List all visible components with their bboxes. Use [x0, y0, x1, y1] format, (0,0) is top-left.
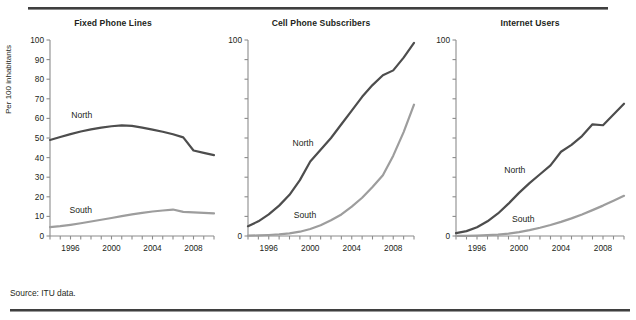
chart-panel-internet-users: Internet Users 01001996200020042008North…	[430, 18, 630, 270]
series-label-north: North	[292, 138, 313, 148]
y-tick-label: 30	[35, 172, 45, 182]
y-tick-label: 70	[35, 94, 45, 104]
y-tick-label: 0	[39, 231, 44, 241]
chart-panel-fixed-phone-lines: Fixed Phone Lines Per 100 inhabitants 01…	[6, 18, 220, 270]
plot-area: 01001996200020042008NorthSouth	[222, 18, 420, 270]
y-tick-label: 100	[30, 35, 44, 45]
y-tick-label: 100	[436, 35, 450, 45]
y-tick-label: 10	[35, 211, 45, 221]
series-line-south	[248, 105, 414, 236]
y-tick-label: 50	[35, 133, 45, 143]
y-tick-label: 90	[35, 55, 45, 65]
y-tick-label: 100	[228, 35, 242, 45]
y-tick-label: 0	[237, 231, 242, 241]
y-tick-label: 40	[35, 153, 45, 163]
x-tick-label: 2004	[552, 243, 571, 253]
figure-panel-chart: Fixed Phone Lines Per 100 inhabitants 01…	[0, 0, 636, 320]
series-label-south: South	[294, 210, 317, 220]
x-tick-label: 1996	[468, 243, 487, 253]
x-tick-label: 2004	[143, 243, 162, 253]
chart-panel-cell-phone-subscribers: Cell Phone Subscribers 01001996200020042…	[222, 18, 420, 270]
series-line-north	[50, 125, 214, 155]
x-tick-label: 1996	[260, 243, 279, 253]
y-tick-label: 20	[35, 192, 45, 202]
y-tick-label: 0	[445, 231, 450, 241]
series-label-north: North	[71, 110, 92, 120]
series-label-south: South	[512, 214, 535, 224]
x-tick-label: 2008	[384, 243, 403, 253]
x-tick-label: 2008	[594, 243, 613, 253]
clipped-header-text	[150, 0, 410, 1]
series-label-south: South	[70, 205, 93, 215]
series-label-north: North	[504, 165, 525, 175]
bottom-rule	[10, 309, 630, 311]
x-tick-label: 1996	[61, 243, 80, 253]
x-tick-label: 2004	[343, 243, 362, 253]
top-rule	[28, 7, 608, 9]
plot-svg: 01001996200020042008NorthSouth	[430, 18, 630, 270]
series-line-south	[456, 196, 624, 236]
x-tick-label: 2008	[184, 243, 203, 253]
x-tick-label: 2000	[301, 243, 320, 253]
plot-area: 01001996200020042008NorthSouth	[430, 18, 630, 270]
series-line-north	[456, 104, 624, 233]
source-note: Source: ITU data.	[10, 288, 76, 298]
y-tick-label: 60	[35, 113, 45, 123]
plot-svg: 01001996200020042008NorthSouth	[222, 18, 420, 270]
x-tick-label: 2000	[102, 243, 121, 253]
y-tick-label: 80	[35, 74, 45, 84]
plot-area: 01020304050607080901001996200020042008No…	[6, 18, 220, 270]
series-line-north	[248, 43, 414, 226]
x-tick-label: 2000	[510, 243, 529, 253]
plot-svg: 01020304050607080901001996200020042008No…	[6, 18, 220, 270]
